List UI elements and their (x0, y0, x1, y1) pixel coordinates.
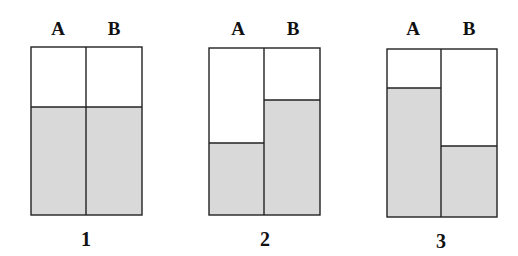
container-diagram-1: A B 1 (31, 18, 142, 250)
column-label-b: B (108, 18, 121, 39)
fill-column-a (209, 143, 264, 215)
container-diagram-3: A B 3 (387, 18, 497, 252)
fill-column-a (31, 107, 86, 215)
fill-column-b (86, 107, 142, 215)
diagram-number: 1 (81, 228, 91, 250)
diagram-number: 3 (436, 230, 446, 252)
column-label-b: B (287, 18, 300, 39)
column-label-b: B (463, 18, 476, 39)
column-label-a: A (406, 18, 420, 39)
fill-column-b (441, 146, 497, 217)
fill-column-a (387, 88, 441, 217)
column-label-a: A (231, 18, 245, 39)
column-label-a: A (51, 18, 65, 39)
diagram-canvas: A B 1 A B 2 A B 3 (0, 0, 518, 256)
container-diagram-2: A B 2 (209, 18, 320, 250)
diagram-number: 2 (260, 228, 270, 250)
fill-column-b (264, 100, 320, 215)
